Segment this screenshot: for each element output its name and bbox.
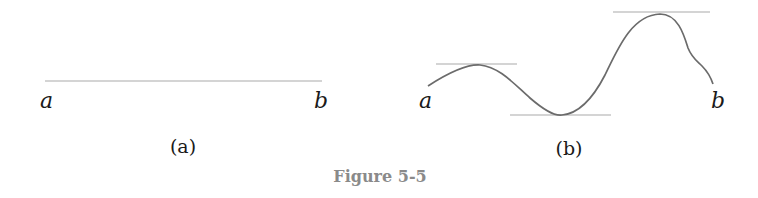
panel-b: a b (b) — [419, 12, 725, 159]
endpoint-label-a: a — [40, 88, 53, 113]
endpoint-label-a: a — [419, 88, 432, 113]
panel-b-sublabel: (b) — [556, 137, 583, 159]
figure-5-5: a b (a) a b (b) Figure 5-5 — [0, 0, 758, 198]
figure-caption: Figure 5-5 — [333, 167, 426, 186]
panel-a: a b (a) — [40, 81, 328, 157]
endpoint-label-b: b — [711, 88, 725, 113]
endpoint-label-b: b — [314, 88, 328, 113]
panel-a-sublabel: (a) — [170, 135, 196, 157]
